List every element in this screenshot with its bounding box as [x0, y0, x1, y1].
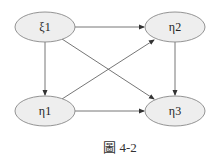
figure-caption: 圖 4-2: [0, 137, 218, 156]
node-xi1: ξ1: [15, 12, 75, 42]
node-label: η2: [169, 20, 181, 34]
node-eta2: η2: [145, 12, 205, 42]
node-eta3: η3: [145, 96, 205, 126]
node-eta1: η1: [15, 96, 75, 126]
path-diagram: ξ1 η2 η1 η3: [0, 0, 218, 159]
node-label: η3: [169, 104, 181, 118]
figure: ξ1 η2 η1 η3 圖 4-2: [0, 0, 218, 159]
node-label: η1: [39, 104, 51, 118]
node-label: ξ1: [39, 20, 50, 34]
